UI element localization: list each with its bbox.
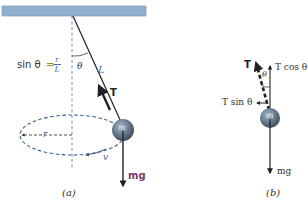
tension-label-b: T xyxy=(244,60,251,70)
conical-pendulum-figure: sin θ = r L θ L T m r v mg (a) T θ T cos… xyxy=(0,0,308,208)
tension-horizontal-component-label: T sin θ xyxy=(222,98,252,107)
caption-a: (a) xyxy=(62,188,76,198)
fraction-numerator: r xyxy=(55,55,59,64)
fraction-denominator: L xyxy=(54,65,59,74)
formula-sin-theta: sin θ xyxy=(17,60,41,70)
angle-theta-label: θ xyxy=(77,62,82,71)
panel-a xyxy=(2,6,146,186)
formula-fraction: r L xyxy=(53,55,61,74)
angle-theta-arc xyxy=(72,53,88,56)
weight-label-b: mg xyxy=(277,167,291,176)
radius-label: r xyxy=(43,130,47,139)
angle-theta-label-b: θ xyxy=(262,71,267,79)
mass-label: m xyxy=(118,124,126,132)
tension-vector-head xyxy=(256,63,259,72)
mass-label-b: m xyxy=(266,112,274,120)
velocity-label: v xyxy=(103,153,108,162)
tension-label: T xyxy=(110,88,117,98)
weight-label: mg xyxy=(128,171,146,181)
tension-arrow xyxy=(99,86,110,110)
angle-theta-arc-b xyxy=(261,85,270,87)
length-label: L xyxy=(98,65,105,75)
tension-vertical-component-label: T cos θ xyxy=(275,63,307,72)
caption-b: (b) xyxy=(266,188,280,198)
diagram-graphics xyxy=(0,0,308,208)
ceiling-support xyxy=(2,6,146,16)
